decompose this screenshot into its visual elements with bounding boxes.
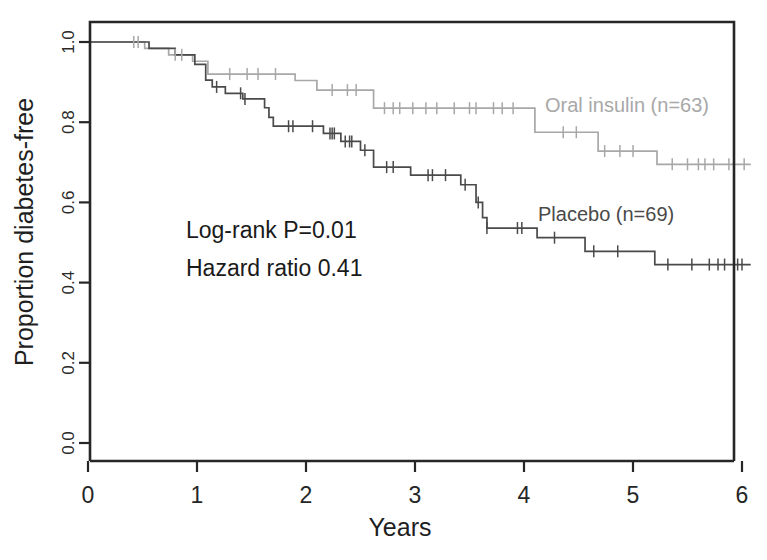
kaplan-meier-figure: 0123456 0.00.20.40.60.81.0 Years Proport… [0,0,767,560]
y-tick-label-0.6: 0.6 [59,191,78,215]
chart-canvas: 0123456 0.00.20.40.60.81.0 Years Proport… [0,0,767,560]
figure-background [0,0,767,560]
x-tick-label-1: 1 [191,482,204,508]
x-tick-label-5: 5 [627,482,640,508]
y-tick-label-0.2: 0.2 [59,351,78,375]
x-tick-label-6: 6 [736,482,749,508]
series-label-placebo: Placebo (n=69) [538,203,674,225]
x-tick-label-0: 0 [82,482,95,508]
y-axis-title: Proportion diabetes-free [10,98,38,366]
annotation-hazard-ratio: Hazard ratio 0.41 [186,255,362,281]
annotation-log-rank: Log-rank P=0.01 [186,217,357,243]
x-axis-title: Years [368,513,431,541]
series-label-oral-insulin: Oral insulin (n=63) [545,94,709,116]
y-tick-label-0.4: 0.4 [59,271,78,295]
y-tick-label-0.0: 0.0 [59,431,78,455]
y-tick-label-1.0: 1.0 [59,30,78,54]
y-tick-label-0.8: 0.8 [59,110,78,134]
x-tick-label-4: 4 [518,482,531,508]
x-tick-label-3: 3 [409,482,422,508]
x-tick-label-2: 2 [300,482,313,508]
